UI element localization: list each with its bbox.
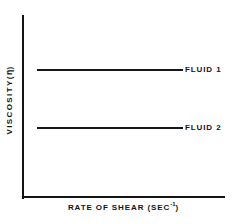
series-label-fluid-2: FLUID 2 (185, 124, 222, 132)
series-line-fluid-1 (37, 69, 183, 71)
y-axis-title-container: VISCOSITY(η) (0, 40, 20, 160)
y-axis-title-prefix: VISCOSITY( (5, 75, 14, 134)
x-axis-title: RATE OF SHEAR (SEC-1) (22, 204, 225, 212)
viscosity-shear-rate-chart: FLUID 1 FLUID 2 RATE OF SHEAR (SEC-1) VI… (0, 0, 235, 224)
x-axis-title-suffix: ) (176, 203, 180, 212)
y-axis-title: VISCOSITY(η) (6, 65, 14, 134)
x-axis-line (22, 196, 225, 198)
y-axis-line (22, 15, 24, 199)
series-label-fluid-1: FLUID 1 (185, 66, 222, 74)
y-axis-title-suffix: ) (5, 65, 14, 69)
eta-symbol: η (5, 70, 14, 76)
series-line-fluid-2 (37, 127, 183, 129)
x-axis-title-prefix: RATE OF SHEAR (SEC (68, 203, 170, 212)
